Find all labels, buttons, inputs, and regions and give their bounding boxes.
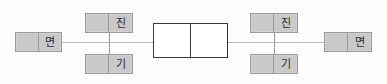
- node-left-myeon-right-cell: 면: [39, 33, 62, 51]
- node-left-bottom-gi-left-cell: [86, 55, 109, 73]
- node-left-bottom-gi[interactable]: 기: [85, 54, 133, 74]
- node-right-top-jin-left-cell: [251, 14, 274, 32]
- node-left-myeon[interactable]: 면: [15, 32, 62, 52]
- node-left-top-jin-left-cell: [86, 14, 109, 32]
- connector-line-vertical-left: [109, 33, 110, 54]
- node-left-top-jin[interactable]: 진: [85, 13, 133, 33]
- node-right-myeon[interactable]: 면: [324, 32, 372, 52]
- node-right-top-jin[interactable]: 진: [250, 13, 298, 33]
- node-right-bottom-gi[interactable]: 기: [250, 54, 298, 74]
- connector-line-vertical-right: [274, 33, 275, 54]
- center-double-box[interactable]: [153, 23, 228, 58]
- node-left-top-jin-right-cell: 진: [109, 14, 132, 32]
- node-right-top-jin-right-cell: 진: [274, 14, 297, 32]
- node-right-bottom-gi-right-cell: 기: [274, 55, 297, 73]
- connector-line-right: [228, 42, 324, 43]
- diagram-canvas: 면 진 기 진 기 면: [0, 0, 387, 84]
- center-box-cell-right: [191, 24, 228, 57]
- node-right-myeon-right-cell: 면: [348, 33, 371, 51]
- connector-line-left: [62, 42, 153, 43]
- node-left-bottom-gi-right-cell: 기: [109, 55, 132, 73]
- node-left-myeon-left-cell: [16, 33, 39, 51]
- node-right-bottom-gi-left-cell: [251, 55, 274, 73]
- center-box-cell-left: [154, 24, 191, 57]
- node-right-myeon-left-cell: [325, 33, 348, 51]
